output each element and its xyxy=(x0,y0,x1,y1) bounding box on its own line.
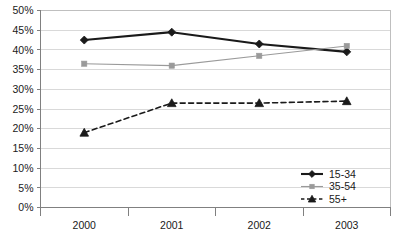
data-point-marker-legend-35-54 xyxy=(310,184,314,188)
legend-label-35-54: 35-54 xyxy=(329,180,356,192)
x-axis-tick-label: 2003 xyxy=(335,219,359,231)
y-axis-tick-label: 20% xyxy=(12,122,33,134)
y-axis-tick-label: 45% xyxy=(12,24,33,36)
y-axis-tick-label: 30% xyxy=(12,83,33,95)
data-point-marker-35-54 xyxy=(169,63,174,68)
y-axis-tick-label: 10% xyxy=(12,162,33,174)
line-chart: 0%5%10%15%20%25%30%35%40%45%50% 20002001… xyxy=(0,0,399,239)
y-axis-tick-label: 35% xyxy=(12,63,33,75)
y-axis-tick-label: 15% xyxy=(12,142,33,154)
x-axis-tick-label: 2000 xyxy=(73,219,97,231)
data-point-marker-35-54 xyxy=(257,53,262,58)
y-axis-tick-label: 0% xyxy=(18,201,33,213)
legend-label-15-34: 15-34 xyxy=(329,168,356,180)
data-point-marker-35-54 xyxy=(344,43,349,48)
x-axis-tick-label: 2001 xyxy=(160,219,184,231)
y-axis-tick-label: 25% xyxy=(12,103,33,115)
legend-label-55-: 55+ xyxy=(329,193,347,205)
chart-canvas: 0%5%10%15%20%25%30%35%40%45%50% 20002001… xyxy=(0,0,399,239)
y-axis-tick-label: 5% xyxy=(18,182,33,194)
x-axis-tick-label: 2002 xyxy=(248,219,272,231)
data-point-marker-35-54 xyxy=(82,61,87,66)
y-axis-tick-label: 40% xyxy=(12,44,33,56)
y-axis-tick-label: 50% xyxy=(12,4,33,16)
